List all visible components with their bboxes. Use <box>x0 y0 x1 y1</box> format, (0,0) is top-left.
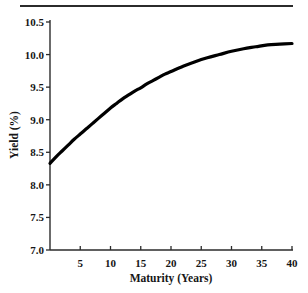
axis-lines <box>50 20 293 250</box>
y-tick-label: 10.0 <box>16 49 44 60</box>
y-tick-label: 7.5 <box>16 212 44 223</box>
x-tick-label: 5 <box>78 258 84 269</box>
x-tick-label: 30 <box>226 258 237 269</box>
x-tick-label: 35 <box>256 258 267 269</box>
x-tick-label: 40 <box>287 258 298 269</box>
x-axis-title: Maturity (Years) <box>130 272 213 284</box>
y-axis-title: Yield (%) <box>8 111 20 159</box>
yield-curve-figure: 7.07.58.08.59.09.510.010.5 5101520253035… <box>0 0 308 293</box>
x-tick-label: 10 <box>105 258 116 269</box>
y-tick-label: 8.5 <box>16 147 44 158</box>
y-tick-label: 8.0 <box>16 179 44 190</box>
x-tick-label: 25 <box>196 258 207 269</box>
chart-plot-area <box>0 0 308 293</box>
x-tick-label: 20 <box>166 258 177 269</box>
y-tick-label: 9.0 <box>16 114 44 125</box>
y-tick-label: 10.5 <box>16 17 44 28</box>
yield-curve-line <box>50 44 292 164</box>
y-tick-label: 9.5 <box>16 82 44 93</box>
x-tick-label: 15 <box>135 258 146 269</box>
y-tick-label: 7.0 <box>16 245 44 256</box>
